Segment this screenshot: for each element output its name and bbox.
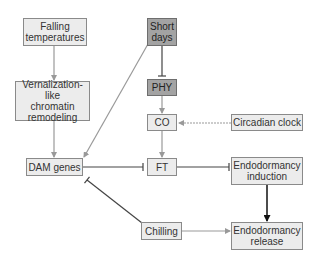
node-falling-temperatures: Falling temperatures xyxy=(23,18,87,46)
node-label: Chilling xyxy=(145,226,178,237)
node-label: CO xyxy=(155,117,170,128)
node-co: CO xyxy=(147,114,177,131)
node-endodormancy-induction: Endodormancy induction xyxy=(231,157,303,185)
inhibition-bar-icon xyxy=(85,177,90,183)
node-chilling: Chilling xyxy=(141,222,182,240)
node-circadian-clock: Circadian clock xyxy=(231,114,303,131)
node-ft: FT xyxy=(147,158,177,176)
node-label: DAM genes xyxy=(28,162,80,173)
node-label: Endodormancy release xyxy=(233,225,300,247)
node-dam-genes: DAM genes xyxy=(26,158,83,176)
node-short-days: Short days xyxy=(147,18,177,46)
node-label: PHY xyxy=(152,82,173,93)
edge-shortdays-to-dam xyxy=(84,44,148,157)
node-vernalization-remodeling: Vernalization-like chromatin remodeling xyxy=(15,81,90,121)
dormancy-pathway-diagram: Falling temperatures Short days Vernaliz… xyxy=(0,0,318,261)
node-label: FT xyxy=(156,162,168,173)
node-label: Endodormancy induction xyxy=(233,160,300,182)
edge-chilling-inhibits-dam xyxy=(87,180,142,223)
node-endodormancy-release: Endodormancy release xyxy=(231,222,303,250)
node-label: Falling temperatures xyxy=(26,21,85,43)
node-label: Vernalization-like chromatin remodeling xyxy=(16,79,89,123)
node-phy: PHY xyxy=(147,79,177,96)
node-label: Circadian clock xyxy=(233,117,301,128)
node-label: Short days xyxy=(150,21,174,43)
